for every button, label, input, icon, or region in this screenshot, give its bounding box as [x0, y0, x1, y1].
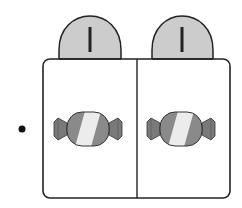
tab-left — [59, 16, 121, 59]
bullet-dot — [19, 126, 26, 133]
tab-right — [152, 16, 213, 59]
candy-box-diagram — [0, 0, 242, 208]
